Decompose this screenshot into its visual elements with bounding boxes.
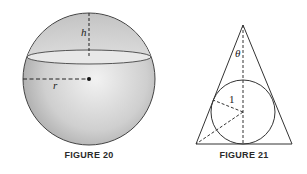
label-one: 1 — [229, 93, 235, 105]
label-r: r — [53, 79, 58, 91]
radius-dashed-line — [213, 100, 243, 112]
bisector-dashed-line — [196, 112, 243, 144]
label-theta: θ — [235, 47, 241, 59]
center-dot — [87, 77, 91, 81]
figure-20-caption: FIGURE 20 — [64, 150, 113, 160]
label-h: h — [81, 26, 87, 38]
figure-21-caption: FIGURE 21 — [219, 150, 268, 160]
figure-20-sphere: h r FIGURE 20 — [23, 13, 155, 160]
figure-21-triangle: θ 1 FIGURE 21 — [196, 25, 292, 160]
figures-canvas: h r FIGURE 20 θ 1 FIGURE 21 — [0, 0, 307, 174]
